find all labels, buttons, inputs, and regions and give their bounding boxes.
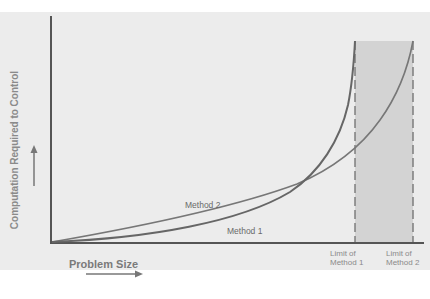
method-1-label: Method 1 <box>227 226 262 236</box>
y-axis-label: Computation Required to Control <box>9 71 20 229</box>
limit-method-1-line1: Limit of <box>330 249 363 258</box>
limit-method-2-label: Limit of Method 2 <box>386 249 419 267</box>
method-2-label: Method 2 <box>185 200 220 210</box>
chart-canvas <box>0 0 430 299</box>
limit-method-1-label: Limit of Method 1 <box>330 249 363 267</box>
y-arrowhead-icon <box>31 145 38 153</box>
x-arrowhead-icon <box>135 271 143 278</box>
limit-method-1-line2: Method 1 <box>330 258 363 267</box>
limit-method-2-line1: Limit of <box>386 249 419 258</box>
x-axis-label: Problem Size <box>69 258 138 270</box>
limit-method-2-line2: Method 2 <box>386 258 419 267</box>
